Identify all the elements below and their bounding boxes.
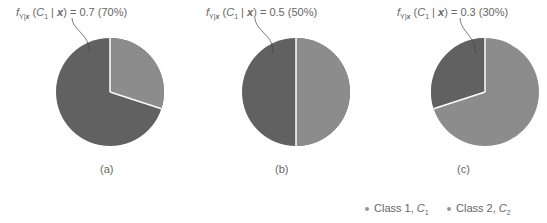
annotation-c-value: = 0.3 (30%) [451,6,508,18]
panel-label-c: (c) [457,163,470,175]
annotation-a: fY|x (C1 | x) = 0.7 (70%) [16,6,127,20]
annotation-a-value: = 0.7 (70%) [70,6,127,18]
legend-class1-sub: 1 [425,209,429,216]
legend-class2-symbol: C [499,202,507,214]
panel-label-a: (a) [100,163,113,175]
panel-label-b: (b) [275,163,288,175]
legend-dot-icon [447,207,451,211]
annotation-b-value: = 0.5 (50%) [260,6,317,18]
legend-class1-label: Class 1, [374,202,417,214]
pie-charts [0,0,547,223]
pie-c [431,18,539,146]
annotation-c: fY|x (C1 | x) = 0.3 (30%) [397,6,508,20]
pie-a [56,18,164,146]
legend-class1-symbol: C [417,202,425,214]
annotation-b: fY|x (C1 | x) = 0.5 (50%) [206,6,317,20]
legend-class2-sub: 2 [507,209,511,216]
legend-dot-icon [365,207,369,211]
legend-class2-label: Class 2, [456,202,499,214]
legend-class2: Class 2, C2 [447,202,511,216]
legend-class1: Class 1, C1 [365,202,429,216]
pie-b [242,18,350,146]
